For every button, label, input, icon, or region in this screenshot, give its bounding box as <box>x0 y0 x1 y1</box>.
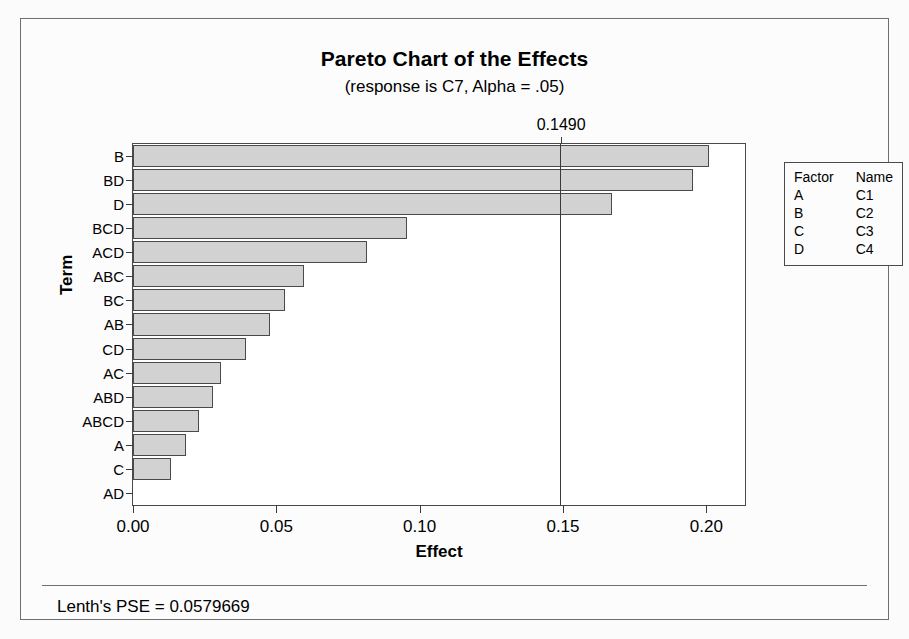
bar-row: AD <box>133 481 745 505</box>
reference-line-tick <box>561 137 562 144</box>
y-axis-tick <box>126 324 133 325</box>
legend-name-cell: C3 <box>834 222 893 240</box>
bar-acd <box>133 241 367 263</box>
y-axis-label-abd: ABD <box>93 388 124 405</box>
y-axis-tick <box>126 276 133 277</box>
bar-row: AC <box>133 361 745 385</box>
legend-factor-cell: A <box>794 186 834 204</box>
legend-header-name: Name <box>834 168 893 186</box>
legend-body: AC1BC2CC3DC4 <box>794 186 893 258</box>
bar-cd <box>133 338 246 360</box>
x-axis-label: 0.05 <box>260 517 293 537</box>
bar-row: ACD <box>133 240 745 264</box>
legend-factor-cell: C <box>794 222 834 240</box>
bar-abd <box>133 386 213 408</box>
legend-factor-cell: D <box>794 240 834 258</box>
bar-row: ABC <box>133 264 745 288</box>
reference-line: 0.1490 <box>560 144 561 505</box>
chart-subtitle: (response is C7, Alpha = .05) <box>21 77 888 97</box>
x-axis-tick <box>276 505 277 513</box>
x-axis-label: 0.20 <box>690 517 723 537</box>
plot-area: BBDDBCDACDABCBCABCDACABDABCDACAD 0.000.0… <box>132 143 746 506</box>
y-axis-tick <box>126 228 133 229</box>
bar-a <box>133 434 186 456</box>
chart-title: Pareto Chart of the Effects <box>21 47 888 71</box>
legend-table: Factor Name AC1BC2CC3DC4 <box>794 168 893 258</box>
y-axis-label-b: B <box>114 148 124 165</box>
x-axis-label: 0.15 <box>546 517 579 537</box>
bar-ab <box>133 313 270 335</box>
bar-row: CD <box>133 337 745 361</box>
bar-d <box>133 193 612 215</box>
factor-legend: Factor Name AC1BC2CC3DC4 <box>784 162 903 266</box>
bar-ac <box>133 362 221 384</box>
y-axis-label-bd: BD <box>103 172 124 189</box>
y-axis-tick <box>126 421 133 422</box>
legend-row: DC4 <box>794 240 893 258</box>
x-axis-tick <box>420 505 421 513</box>
y-axis-label-acd: ACD <box>92 244 124 261</box>
x-axis-label: 0.00 <box>116 517 149 537</box>
bar-bcd <box>133 217 407 239</box>
bar-c <box>133 458 171 480</box>
y-axis-tick <box>126 204 133 205</box>
legend-row: BC2 <box>794 204 893 222</box>
bar-row: D <box>133 192 745 216</box>
bar-row: B <box>133 144 745 168</box>
bar-row: BD <box>133 168 745 192</box>
bar-row: C <box>133 457 745 481</box>
x-axis-tick <box>706 505 707 513</box>
bar-row: AB <box>133 312 745 336</box>
bar-row: ABD <box>133 385 745 409</box>
y-axis-label-ac: AC <box>103 364 124 381</box>
y-axis-tick <box>126 252 133 253</box>
bar-row: A <box>133 433 745 457</box>
bar-abc <box>133 265 304 287</box>
y-axis-tick <box>126 397 133 398</box>
bar-bc <box>133 289 285 311</box>
y-axis-label-ab: AB <box>104 316 124 333</box>
footer-divider <box>42 585 867 586</box>
legend-name-cell: C2 <box>834 204 893 222</box>
y-axis-label-ad: AD <box>103 484 124 501</box>
x-axis-title: Effect <box>132 542 746 562</box>
legend-name-cell: C4 <box>834 240 893 258</box>
y-axis-tick <box>126 349 133 350</box>
y-axis-label-a: A <box>114 436 124 453</box>
y-axis-label-bc: BC <box>103 292 124 309</box>
legend-name-cell: C1 <box>834 186 893 204</box>
graph-frame: Pareto Chart of the Effects (response is… <box>20 18 889 620</box>
x-axis-tick <box>133 505 134 513</box>
y-axis-title: Term <box>57 255 77 295</box>
bar-row: BC <box>133 288 745 312</box>
y-axis-tick <box>126 469 133 470</box>
y-axis-label-cd: CD <box>102 340 124 357</box>
legend-row: AC1 <box>794 186 893 204</box>
y-axis-label-bcd: BCD <box>92 220 124 237</box>
legend-header-factor: Factor <box>794 168 834 186</box>
y-axis-label-abcd: ABCD <box>82 412 124 429</box>
y-axis-tick <box>126 493 133 494</box>
y-axis-tick <box>126 156 133 157</box>
x-axis-tick <box>563 505 564 513</box>
bar-row: ABCD <box>133 409 745 433</box>
bar-row: BCD <box>133 216 745 240</box>
x-axis-label: 0.10 <box>403 517 436 537</box>
y-axis-label-abc: ABC <box>93 268 124 285</box>
bar-bd <box>133 169 693 191</box>
y-axis-tick <box>126 373 133 374</box>
reference-line-label: 0.1490 <box>537 116 586 134</box>
bar-abcd <box>133 410 199 432</box>
legend-factor-cell: B <box>794 204 834 222</box>
bar-b <box>133 145 709 167</box>
y-axis-label-d: D <box>113 196 124 213</box>
y-axis-label-c: C <box>113 460 124 477</box>
legend-row: CC3 <box>794 222 893 240</box>
y-axis-tick <box>126 300 133 301</box>
y-axis-tick <box>126 445 133 446</box>
y-axis-tick <box>126 180 133 181</box>
pareto-chart-screenshot: Pareto Chart of the Effects (response is… <box>0 0 909 639</box>
legend-header-row: Factor Name <box>794 168 893 186</box>
lenth-pse-note: Lenth's PSE = 0.0579669 <box>57 597 250 617</box>
